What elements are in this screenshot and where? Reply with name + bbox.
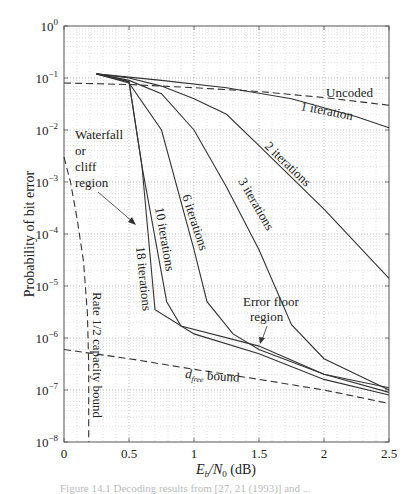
- figure-caption: Figure 14.1 Decoding results from [27, 2…: [60, 482, 311, 494]
- x-tick-label: 2.5: [381, 446, 397, 461]
- y-tick-label: 100: [41, 17, 59, 34]
- label-6-iterations: 6 iterations: [179, 192, 211, 252]
- label-dfree-bound: dfree bound: [185, 366, 241, 387]
- y-tick-label: 10−5: [35, 277, 58, 294]
- y-tick-label: 10−1: [35, 69, 58, 86]
- x-tick-label: 1: [191, 446, 198, 461]
- label-error-floor-region: region: [250, 309, 284, 324]
- label-capacity-bound: Rate 1/2 capacity bound: [90, 292, 105, 418]
- y-tick-label: 10−2: [35, 121, 58, 138]
- x-tick-label: 0.5: [121, 446, 137, 461]
- label-10-iterations: 10 iterations: [152, 206, 178, 272]
- x-tick-label: 1.5: [251, 446, 267, 461]
- x-tick-label: 2: [321, 446, 328, 461]
- curve-rate-1-2-capacity-bound: [64, 157, 89, 442]
- label-waterfall-or: or: [75, 143, 87, 158]
- label-waterfall-cliff: cliff: [75, 159, 97, 174]
- label-waterfall-region: region: [75, 175, 109, 190]
- label-uncoded: Uncoded: [326, 85, 373, 100]
- label-2-iterations: 2 iterations: [262, 138, 314, 189]
- y-tick-label: 10−7: [35, 381, 58, 398]
- y-axis-label: Probability of bit error: [22, 170, 37, 297]
- y-tick-label: 10−8: [35, 433, 58, 450]
- x-tick-label: 0: [61, 446, 68, 461]
- y-tick-label: 10−4: [35, 225, 58, 242]
- y-tick-label: 10−6: [35, 329, 58, 346]
- label-waterfall: Waterfall: [75, 127, 123, 142]
- label-error-floor: Error floor: [243, 294, 300, 309]
- y-tick-label: 10−3: [35, 173, 58, 190]
- x-axis-label: Eb/N0 (dB): [195, 462, 256, 479]
- label-1-iteration: 1 iteration: [299, 98, 354, 123]
- curve-18-iterations: [97, 74, 390, 395]
- label-3-iterations: 3 iterations: [235, 175, 277, 233]
